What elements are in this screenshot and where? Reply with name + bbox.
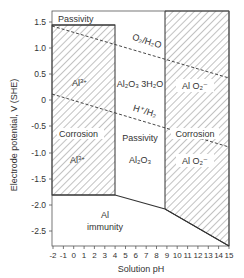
region-label-alo2-lower: Al O₂⁻ (182, 156, 208, 166)
x-tick: 7 (144, 251, 149, 260)
region-label-alo2-upper: Al O₂⁻ (182, 81, 208, 91)
x-axis (53, 246, 229, 249)
x-tick-labels: -2 -1 0 1 2 3 4 5 6 7 8 9 10 11 12 13 14… (49, 251, 234, 260)
x-tick: 15 (225, 251, 234, 260)
x-tick: 14 (214, 251, 223, 260)
x-tick: 2 (92, 251, 97, 260)
x-tick: 8 (154, 251, 159, 260)
x-tick: 4 (113, 251, 118, 260)
x-tick: 5 (123, 251, 128, 260)
x-tick: 10 (173, 251, 182, 260)
region-label-corrosion-right: Corrosion (175, 129, 214, 139)
y-tick: 1.0 (34, 43, 46, 53)
pourbaix-diagram: 1.5 1.0 0.5 0 -0.5 -1.0 -1.5 -2.0 -2.5 -… (0, 0, 244, 278)
x-tick: 0 (71, 251, 76, 260)
y-tick-labels: 1.5 1.0 0.5 0 -0.5 -1.0 -1.5 -2.0 -2.5 (31, 17, 46, 236)
x-tick: 1 (82, 251, 87, 260)
x-tick: 13 (204, 251, 213, 260)
line-label-o2-h2o: O₂/H₂O (131, 32, 163, 50)
y-tick: -2.5 (31, 226, 46, 236)
y-tick: 0 (41, 95, 46, 105)
x-tick: -2 (49, 251, 57, 260)
x-tick: -1 (60, 251, 68, 260)
line-label-h-h2: H⁺/H₂ (132, 103, 158, 120)
region-label-al2o3: Al₂O₃ (129, 155, 151, 165)
y-tick: 0.5 (34, 69, 46, 79)
x-tick: 12 (193, 251, 202, 260)
region-label-al-immunity-2: immunity (87, 222, 124, 232)
x-axis-title: Solution pH (118, 264, 165, 274)
x-tick: 3 (103, 251, 108, 260)
y-axis-title: Electrode potential, V (SHE) (9, 79, 19, 192)
region-label-al2o3-3h2o: Al₂O₃ 3H₂O (117, 79, 164, 89)
region-label-passivity-top: Passivity (58, 14, 94, 24)
x-tick: 11 (183, 251, 192, 260)
region-label-corrosion-left: Corrosion (59, 129, 98, 139)
x-tick: 9 (165, 251, 170, 260)
x-tick: 6 (134, 251, 139, 260)
y-tick: -1.5 (31, 174, 46, 184)
region-label-al-immunity-1: Al (101, 210, 109, 220)
y-tick: 1.5 (34, 17, 46, 27)
y-tick: -0.5 (31, 121, 46, 131)
y-tick: -1.0 (31, 148, 46, 158)
region-label-passivity-mid: Passivity (122, 133, 158, 143)
y-tick: -2.0 (31, 200, 46, 210)
